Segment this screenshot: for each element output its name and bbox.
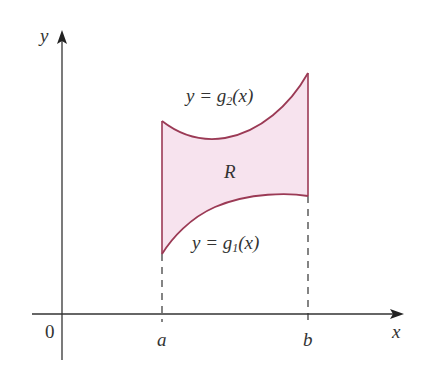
lower-curve-rhs: (x) — [238, 232, 259, 253]
diagram-canvas — [0, 0, 433, 387]
lower-curve-label: y = g1(x) — [192, 233, 259, 254]
region-diagram: y x 0 a b R y = g2(x) y = g1(x) — [0, 0, 433, 387]
origin-label: 0 — [45, 322, 55, 341]
x-axis-label: x — [392, 322, 400, 341]
upper-curve-label: y = g2(x) — [186, 86, 253, 107]
upper-curve-rhs: (x) — [232, 85, 253, 106]
tick-label-b: b — [303, 330, 313, 349]
region-label: R — [224, 162, 236, 181]
upper-curve-lhs: y = g — [186, 85, 226, 106]
y-axis-label: y — [40, 26, 48, 45]
lower-curve-lhs: y = g — [192, 232, 232, 253]
tick-label-a: a — [157, 330, 167, 349]
